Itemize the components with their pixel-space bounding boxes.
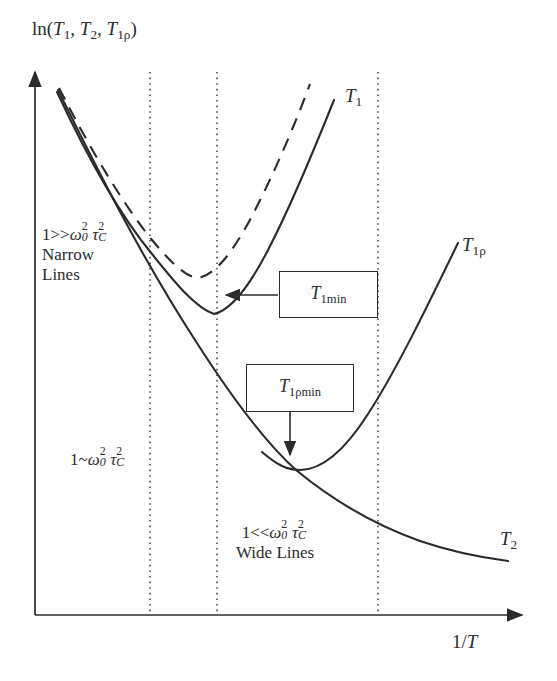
t1rhomin-callout-text: T1ρmin: [279, 376, 321, 400]
narrow-lines-line2: Lines: [42, 265, 109, 285]
narrow-lines-condition: 1>>ω20τ2C: [42, 223, 109, 245]
t1min-callout-text: T1min: [311, 283, 347, 307]
t1rhomin-callout-box: T1ρmin: [246, 364, 354, 412]
x-axis-label-text: 1/T: [452, 631, 477, 652]
plot-canvas: [0, 0, 557, 681]
y-axis-label-text: ln(T1, T2, T1ρ): [32, 18, 137, 39]
wide-lines-line1: Wide Lines: [236, 543, 314, 563]
narrow-lines-line1: Narrow: [42, 245, 109, 265]
t1rho-curve-label: T1ρ: [462, 234, 486, 258]
curve-t2: [58, 90, 508, 561]
y-axis-label: ln(T1, T2, T1ρ): [32, 18, 137, 42]
x-axis-label: 1/T: [452, 631, 477, 653]
t2-curve-label: T2: [500, 528, 517, 552]
relaxation-time-figure: ln(T1, T2, T1ρ) 1/T T1 T1ρ T2 1>>ω20τ2C …: [0, 0, 557, 681]
t1-curve-label: T1: [345, 85, 362, 109]
intermediate-condition: 1~ω20τ2C: [70, 448, 127, 470]
wide-lines-annotation: 1<<ω20τ2C Wide Lines: [236, 521, 314, 563]
intermediate-annotation: 1~ω20τ2C: [70, 448, 127, 470]
narrow-lines-annotation: 1>>ω20τ2C Narrow Lines: [42, 223, 109, 285]
t1min-callout-box: T1min: [279, 271, 378, 318]
wide-lines-condition: 1<<ω20τ2C: [236, 521, 314, 543]
